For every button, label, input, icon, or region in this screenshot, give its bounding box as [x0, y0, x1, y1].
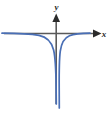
x-axis-arrow-icon — [93, 30, 102, 38]
graph-figure: y x — [0, 0, 110, 114]
y-axis-arrow-icon — [52, 14, 60, 23]
curve-right-branch — [59, 33, 90, 108]
graph-canvas: y x — [0, 0, 110, 114]
x-axis-label: x — [101, 29, 107, 39]
y-axis-label: y — [54, 2, 60, 12]
curve-left-branch — [2, 33, 56, 104]
